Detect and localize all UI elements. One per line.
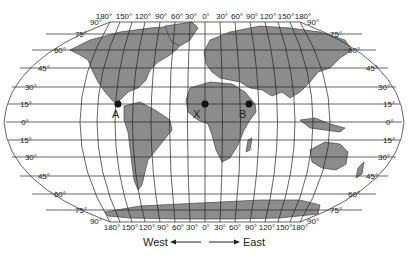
top-longitude-labels: 180° 150° 120° 90° 60° 30° 0° 30° 60° 90… <box>96 12 312 21</box>
lat-label: 75° <box>75 206 87 215</box>
point-b-label: B <box>239 108 246 120</box>
lat-label: 75° <box>75 30 87 39</box>
new-zealand <box>356 162 364 178</box>
lon-label: 0° <box>202 12 210 21</box>
lat-label: 60° <box>348 46 360 55</box>
east-arrow-icon <box>234 240 240 245</box>
lat-label: 45° <box>366 172 378 181</box>
lat-label: 15° <box>383 100 395 109</box>
east-label: East <box>243 236 265 248</box>
lon-label: 90° <box>245 223 257 232</box>
lat-label: 45° <box>366 64 378 73</box>
lon-label: 60° <box>231 12 243 21</box>
lon-label: 180° <box>292 223 309 232</box>
lon-label: 150° <box>122 223 139 232</box>
se-asia-islands <box>300 118 345 132</box>
lon-label: 150° <box>116 12 133 21</box>
lat-label: 75° <box>330 30 342 39</box>
lat-label: 90° <box>307 18 319 27</box>
west-arrow-icon <box>170 240 176 245</box>
lat-label: 60° <box>54 190 66 199</box>
lon-label: 90° <box>246 12 258 21</box>
lat-label: 45° <box>38 64 50 73</box>
lon-label: 120° <box>260 12 277 21</box>
landmasses <box>70 22 364 219</box>
lon-label: 120° <box>259 223 276 232</box>
lat-label: 90° <box>307 217 319 226</box>
lat-label: 60° <box>54 46 66 55</box>
lat-label: 45° <box>38 172 50 181</box>
lon-label: 90° <box>157 223 169 232</box>
point-b-marker <box>246 101 253 108</box>
antarctica <box>105 200 320 219</box>
lon-label: 120° <box>135 12 152 21</box>
south-america <box>124 102 172 190</box>
lon-label: 60° <box>229 223 241 232</box>
lat-label: 30° <box>378 83 390 92</box>
lat-label: 60° <box>348 190 360 199</box>
lon-label: 90° <box>155 12 167 21</box>
west-label: West <box>143 236 168 248</box>
point-a-label: A <box>112 108 120 120</box>
lat-label: 0° <box>21 118 29 127</box>
lon-label: 120° <box>139 223 156 232</box>
lat-label: 30° <box>25 153 37 162</box>
bottom-longitude-labels: 180° 150° 120° 90° 60° 30° 0° 30° 60° 90… <box>104 223 309 232</box>
direction-indicator: West East <box>143 236 265 248</box>
point-a-marker <box>115 101 122 108</box>
lat-label: 75° <box>330 206 342 215</box>
lat-label: 0° <box>386 118 394 127</box>
lat-label: 90° <box>90 18 102 27</box>
point-x-label: X <box>193 108 201 120</box>
lat-label: 30° <box>378 153 390 162</box>
lon-label: 60° <box>171 12 183 21</box>
lon-label: 180° <box>104 223 121 232</box>
lon-label: 30° <box>216 12 228 21</box>
lat-label: 90° <box>90 217 102 226</box>
lat-label: 30° <box>25 83 37 92</box>
lon-label: 60° <box>172 223 184 232</box>
australia <box>310 142 348 170</box>
lon-label: 150° <box>276 223 293 232</box>
lat-label: 15° <box>20 136 32 145</box>
lat-label: 15° <box>383 136 395 145</box>
lon-label: 30° <box>186 223 198 232</box>
lon-label: 30° <box>185 12 197 21</box>
point-x-marker <box>202 101 209 108</box>
lon-label: 0° <box>202 223 210 232</box>
world-map: 180° 150° 120° 90° 60° 30° 0° 30° 60° 90… <box>0 0 408 262</box>
lat-label: 15° <box>20 100 32 109</box>
lon-label: 150° <box>278 12 295 21</box>
lon-label: 30° <box>214 223 226 232</box>
